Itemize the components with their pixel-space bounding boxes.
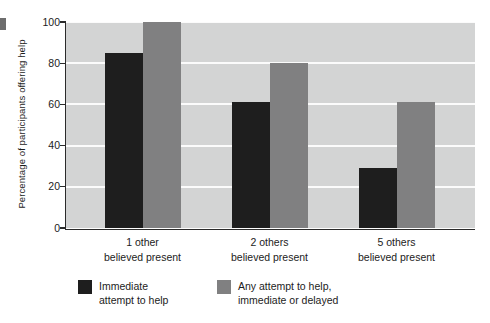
legend-swatch-immediate (78, 280, 92, 294)
plot-area (66, 22, 475, 228)
chart-legend: Immediateattempt to helpAny attempt to h… (66, 279, 475, 319)
legend-label: Immediateattempt to help (99, 279, 168, 307)
bar-any-group2 (270, 63, 308, 228)
y-axis-tick-labels: 020406080100 (28, 22, 60, 228)
bar-any-group1 (143, 22, 181, 228)
y-axis-tick-label: 20 (28, 181, 60, 192)
x-category-line2: believed present (200, 250, 340, 265)
x-category-line1: 2 others (200, 235, 340, 250)
legend-label-line2: immediate or delayed (238, 293, 338, 307)
y-axis-tickmark (60, 145, 66, 146)
legend-label-line2: attempt to help (99, 293, 168, 307)
y-axis-tickmark (60, 63, 66, 64)
bar-immediate-group1 (105, 53, 143, 228)
x-category-line1: 5 others (327, 235, 467, 250)
y-axis-tick-label: 60 (28, 99, 60, 110)
legend-label-line1: Immediate (99, 279, 168, 293)
x-axis-category-2: 2 othersbelieved present (200, 235, 340, 264)
y-axis-tick-label: 40 (28, 140, 60, 151)
bar-immediate-group2 (232, 102, 270, 228)
x-category-line1: 1 other (73, 235, 213, 250)
bar-any-group3 (397, 102, 435, 228)
y-axis-tickmark (60, 104, 66, 105)
legend-label-line1: Any attempt to help, (238, 279, 338, 293)
legend-entry-any[interactable]: Any attempt to help,immediate or delayed (217, 279, 338, 307)
x-category-line2: believed present (73, 250, 213, 265)
y-axis-tick-label: 0 (28, 223, 60, 234)
x-axis-category-labels: 1 otherbelieved present2 othersbelieved … (66, 235, 475, 269)
legend-label: Any attempt to help,immediate or delayed (238, 279, 338, 307)
x-axis-line (65, 229, 475, 230)
x-axis-category-1: 1 otherbelieved present (73, 235, 213, 264)
bar-chart-figure: Percentage of participants offering help… (0, 0, 490, 323)
y-axis-tick-label: 80 (28, 58, 60, 69)
y-axis-tick-label: 100 (28, 17, 60, 28)
x-category-line2: believed present (327, 250, 467, 265)
bar-immediate-group3 (359, 168, 397, 228)
y-axis-tickmark (60, 21, 66, 22)
legend-entry-immediate[interactable]: Immediateattempt to help (78, 279, 168, 307)
scan-corner-mark (0, 18, 6, 30)
gridline (66, 22, 475, 23)
x-axis-category-3: 5 othersbelieved present (327, 235, 467, 264)
y-axis-tickmark (60, 227, 66, 228)
legend-swatch-any (217, 280, 231, 294)
y-axis-tickmark (60, 186, 66, 187)
